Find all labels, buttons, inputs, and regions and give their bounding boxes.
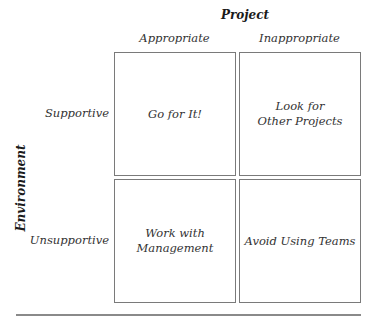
row-label-supportive: Supportive xyxy=(30,106,109,120)
cell-text: Look for Other Projects xyxy=(258,99,343,129)
bottom-divider xyxy=(16,314,361,316)
cell-text: Go for It! xyxy=(148,107,202,122)
column-label-appropriate: Appropriate xyxy=(114,31,235,45)
row-label-unsupportive: Unsupportive xyxy=(20,233,109,247)
cell-unsupportive-inappropriate: Avoid Using Teams xyxy=(239,179,361,303)
cell-supportive-inappropriate: Look for Other Projects xyxy=(239,52,361,176)
cell-unsupportive-appropriate: Work with Management xyxy=(114,179,236,303)
column-label-inappropriate: Inappropriate xyxy=(239,31,360,45)
cell-text: Work with Management xyxy=(137,226,214,256)
cell-text: Avoid Using Teams xyxy=(245,234,356,249)
environment-axis-title: Environment xyxy=(14,143,28,233)
project-axis-title: Project xyxy=(215,8,275,22)
cell-supportive-appropriate: Go for It! xyxy=(114,52,236,176)
